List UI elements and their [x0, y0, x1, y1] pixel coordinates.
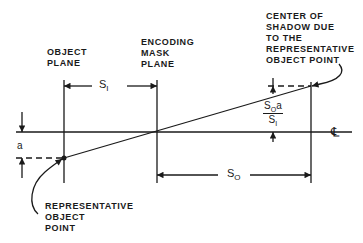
- representative-object-point-label: REPRESENTATIVE OBJECT POINT: [45, 201, 134, 234]
- s-i-dimension-label: SI: [99, 78, 109, 93]
- centerline-symbol-icon: ℄: [331, 124, 339, 139]
- encoding-mask-plane-label: ENCODING MASK PLANE: [141, 37, 194, 70]
- a-dimension-label: a: [17, 140, 23, 151]
- coded-aperture-geometry-diagram: OBJECT PLANE ENCODING MASK PLANE CENTER …: [0, 0, 363, 243]
- s-o-dimension-label: SO: [227, 167, 241, 182]
- shadow-offset-fraction: SOa SI: [263, 100, 283, 127]
- object-plane-label: OBJECT PLANE: [47, 47, 87, 69]
- center-of-shadow-label: CENTER OF SHADOW DUE TO THE REPRESENTATI…: [266, 11, 355, 66]
- object-point-dot: [62, 156, 67, 161]
